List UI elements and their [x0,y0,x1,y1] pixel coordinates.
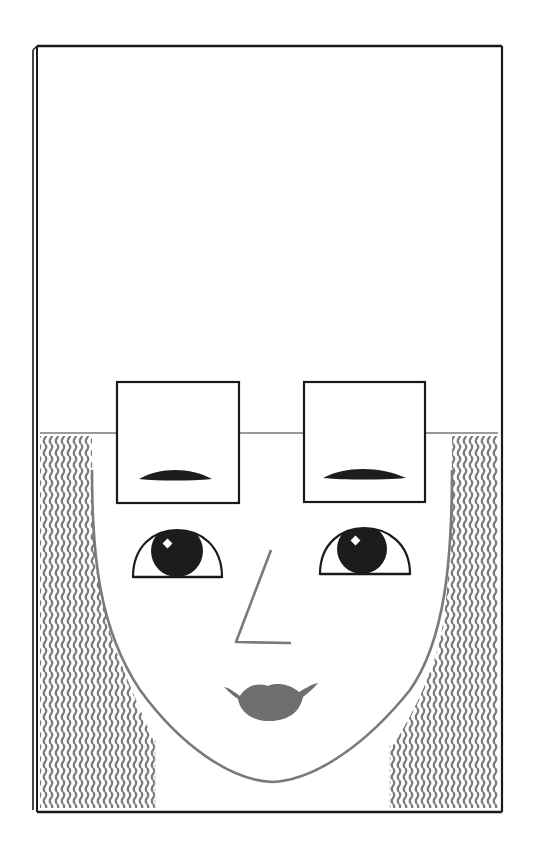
left-eyebrow-box [117,382,239,503]
lips [224,683,318,721]
right-eyebrow-box [304,382,425,502]
nose [236,550,291,643]
right-eye [320,524,410,574]
left-eye [133,525,222,577]
face-illustration [0,0,534,864]
